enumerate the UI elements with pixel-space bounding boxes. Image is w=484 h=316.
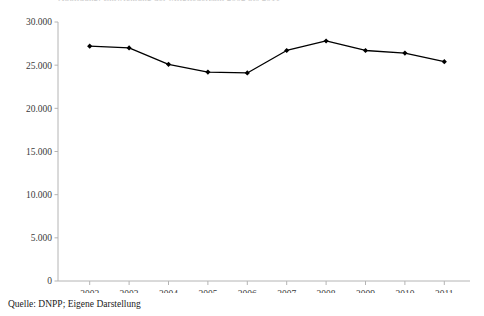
y-tick-label: 5.000 [31, 233, 53, 243]
x-tick-label: 2009 [356, 289, 375, 293]
x-tick-label: 2008 [317, 289, 336, 293]
figure-container: Abbildung: Entwicklung der Mitgliederzah… [0, 0, 484, 316]
y-axis-tick-labels: 05.00010.00015.00020.00025.00030.000 [26, 17, 52, 286]
x-tick-label: 2006 [238, 289, 257, 293]
source-caption: Quelle: DNPP; Eigene Darstellung [8, 298, 141, 310]
data-point-marker [87, 44, 92, 49]
y-tick-label: 30.000 [26, 17, 52, 27]
data-point-marker [166, 62, 171, 67]
x-tick-label: 2005 [198, 289, 217, 293]
data-point-marker [127, 45, 132, 50]
y-axis-tick-marks [55, 22, 59, 281]
x-tick-label: 2007 [277, 289, 296, 293]
data-line [90, 41, 445, 73]
data-point-marker [402, 50, 407, 55]
data-point-markers [87, 38, 447, 75]
data-point-marker [284, 48, 289, 53]
x-tick-label: 2004 [159, 289, 178, 293]
chart-svg: 05.00010.00015.00020.00025.00030.000 200… [0, 8, 484, 293]
x-axis-tick-marks [90, 281, 445, 285]
x-tick-label: 2010 [395, 289, 414, 293]
y-tick-label: 25.000 [26, 61, 52, 71]
y-tick-label: 15.000 [26, 147, 52, 157]
line-chart: 05.00010.00015.00020.00025.00030.000 200… [0, 8, 484, 293]
y-tick-label: 20.000 [26, 104, 52, 114]
clipped-title: Abbildung: Entwicklung der Mitgliederzah… [58, 0, 388, 1]
x-tick-label: 2011 [435, 289, 454, 293]
x-tick-label: 2002 [80, 289, 99, 293]
data-point-marker [205, 69, 210, 74]
data-point-marker [324, 38, 329, 43]
y-tick-label: 10.000 [26, 190, 52, 200]
y-tick-label: 0 [47, 276, 52, 286]
data-point-marker [245, 70, 250, 75]
x-tick-label: 2003 [120, 289, 139, 293]
data-point-marker [442, 59, 447, 64]
x-axis-tick-labels: 2002200320042005200620072008200920102011 [80, 289, 454, 293]
data-point-marker [363, 48, 368, 53]
